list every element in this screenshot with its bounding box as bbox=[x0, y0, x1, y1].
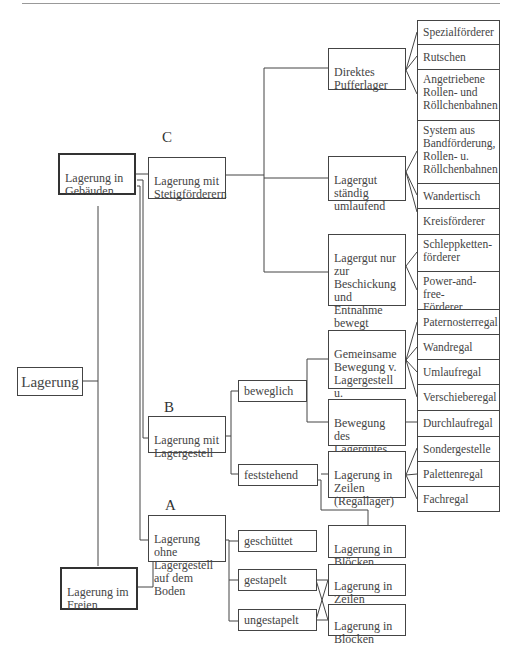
leaf-label: Spezialförderer bbox=[423, 26, 494, 39]
node-lagerung-mit-stetigfoerderern: Lagerung mit Stetigförderern bbox=[148, 157, 226, 199]
leaf-palettenregal: Palettenregal bbox=[417, 461, 500, 487]
node-label: feststehend bbox=[244, 468, 298, 482]
section-letter-b: B bbox=[164, 399, 174, 416]
leaf-paternosterregal: Paternosterregal bbox=[417, 309, 500, 335]
node-label: ungestapelt bbox=[244, 613, 299, 627]
leaf-wandregal: Wandregal bbox=[417, 334, 500, 360]
leaf-spezialfoerderer: Spezialförderer bbox=[417, 20, 500, 45]
node-lagerung-mit-lagergestell: Lagerung mit Lagergestell bbox=[148, 416, 226, 453]
node-a-lagerung-in-bloecken: Lagerung in Blöcken bbox=[328, 604, 406, 636]
node-lagergut-staendig-umlaufend: Lagergut ständig umlaufend bbox=[328, 156, 406, 201]
leaf-label: Rutschen bbox=[423, 51, 466, 64]
leaf-kreisfoerderer: Kreisförderer bbox=[417, 208, 500, 235]
leaf-schleppkettenfoerderer: Schleppketten- förderer bbox=[417, 234, 500, 272]
node-feststehend: feststehend bbox=[238, 464, 318, 486]
leaf-label: Palettenregal bbox=[423, 468, 483, 481]
leaf-label: Paternosterregal bbox=[423, 316, 498, 329]
leaf-label: Angetriebene Rollen- und Röllchenbahnen bbox=[423, 73, 498, 111]
node-lagerung-in-gebaeuden: Lagerung in Gebäuden bbox=[58, 153, 136, 195]
node-label: geschüttet bbox=[244, 534, 293, 548]
node-label: Lagerung in Zeilen (Regallager) bbox=[334, 468, 394, 508]
root-node: Lagerung bbox=[17, 367, 83, 396]
leaf-durchlaufregal: Durchlaufregal bbox=[417, 410, 500, 437]
node-label: beweglich bbox=[244, 384, 293, 398]
leaf-umlaufregal: Umlaufregal bbox=[417, 359, 500, 385]
node-geschuettet: geschüttet bbox=[238, 530, 317, 552]
node-label: Lagerung mit Stetigförderern bbox=[154, 174, 227, 201]
leaf-label: Umlaufregal bbox=[423, 366, 481, 379]
node-lagerung-ohne-lagergestell: Lagerung ohne Lagergestell auf dem Boden bbox=[148, 515, 226, 562]
node-a-lagerung-in-zeilen: Lagerung in Zeilen bbox=[328, 564, 406, 596]
leaf-label: System aus Bandförderung, Rollen- u. Röl… bbox=[423, 124, 498, 175]
leaf-verschieberegal: Verschieberegal bbox=[417, 384, 500, 411]
leaf-label: Wandregal bbox=[423, 341, 473, 354]
section-letter-c: C bbox=[162, 129, 172, 146]
node-label: Direktes Pufferlager bbox=[334, 65, 388, 92]
leaf-power-and-free-foerderer: Power-and-free- Förderer bbox=[417, 271, 500, 310]
node-label: Lagergut ständig umlaufend bbox=[334, 173, 385, 213]
leaf-label: Sondergestelle bbox=[423, 443, 491, 456]
node-label: gestapelt bbox=[244, 573, 287, 587]
node-lagerung-in-bloecken-b: Lagerung in Blöcken bbox=[328, 525, 406, 558]
leaf-rutschen: Rutschen bbox=[417, 44, 500, 70]
node-ungestapelt: ungestapelt bbox=[238, 609, 317, 631]
leaf-label: Durchlaufregal bbox=[423, 417, 493, 430]
leaf-label: Wandertisch bbox=[423, 190, 480, 203]
node-label: Lagerung im Freien bbox=[67, 585, 129, 612]
leaf-label: Fachregal bbox=[423, 493, 468, 506]
node-label: Lagerung in Gebäuden bbox=[65, 171, 123, 198]
node-gestapelt: gestapelt bbox=[238, 569, 317, 591]
node-lagerung-im-freien: Lagerung im Freien bbox=[60, 567, 138, 610]
node-lagergut-beschickung-entnahme: Lagergut nur zur Beschickung und Entnahm… bbox=[328, 234, 406, 306]
leaf-system-bandfoerderung: System aus Bandförderung, Rollen- u. Röl… bbox=[417, 120, 500, 184]
node-lagerung-in-zeilen-regallager: Lagerung in Zeilen (Regallager) bbox=[328, 451, 406, 498]
leaf-label: Verschieberegal bbox=[423, 391, 496, 404]
leaf-label: Schleppketten- förderer bbox=[423, 238, 492, 263]
leaf-sondergestelle: Sondergestelle bbox=[417, 436, 500, 462]
node-label: Lagerung mit Lagergestell bbox=[154, 433, 219, 460]
node-gemeinsame-bewegung: Gemeinsame Bewegung v. Lagergestell u. L… bbox=[328, 330, 406, 389]
leaf-angetriebene-rollenbahnen: Angetriebene Rollen- und Röllchenbahnen bbox=[417, 69, 500, 121]
node-beweglich: beweglich bbox=[238, 380, 307, 402]
section-letter-a: A bbox=[165, 497, 176, 514]
leaf-label: Power-and-free- Förderer bbox=[423, 275, 476, 313]
leaf-label: Kreisförderer bbox=[423, 215, 485, 228]
root-label: Lagerung bbox=[21, 374, 78, 390]
node-bewegung-des-lagergutes: Bewegung des Lagergutes im Lagergestell bbox=[328, 399, 406, 446]
node-direktes-pufferlager: Direktes Pufferlager bbox=[328, 48, 406, 90]
leaf-wandertisch: Wandertisch bbox=[417, 183, 500, 209]
leaf-fachregal: Fachregal bbox=[417, 486, 500, 512]
